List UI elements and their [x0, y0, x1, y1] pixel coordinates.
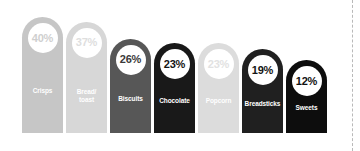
value-bubble: 19% — [248, 55, 278, 85]
percentage-bar-chart: 40%Crisps37%Bread/ toast26%Biscuits23%Ch… — [0, 0, 360, 151]
value-label: 37% — [76, 37, 97, 48]
value-label: 12% — [296, 76, 317, 87]
bar-crisps: 40%Crisps — [22, 17, 63, 133]
category-label: Chocolate — [154, 97, 195, 105]
value-label: 40% — [32, 33, 53, 44]
bar-bread-toast: 37%Bread/ toast — [66, 22, 107, 133]
bar-biscuits: 26%Biscuits — [110, 39, 151, 134]
bars-area: 40%Crisps37%Bread/ toast26%Biscuits23%Ch… — [0, 0, 360, 151]
category-label: Biscuits — [110, 95, 151, 103]
dashed-divider — [352, 0, 353, 151]
value-bubble: 40% — [28, 23, 58, 53]
value-label: 23% — [164, 59, 185, 70]
category-label: Sweets — [286, 104, 327, 112]
bar-chocolate: 23%Chocolate — [154, 43, 195, 133]
value-label: 23% — [208, 59, 229, 70]
value-bubble: 23% — [204, 49, 234, 79]
value-bubble: 23% — [160, 49, 190, 79]
value-bubble: 37% — [72, 28, 102, 58]
bar-sweets: 12%Sweets — [286, 60, 327, 133]
value-bubble: 12% — [292, 66, 322, 96]
value-label: 19% — [252, 65, 273, 76]
category-label: Popcorn — [198, 97, 239, 105]
bar-popcorn: 23%Popcorn — [198, 43, 239, 133]
category-label: Breadsticks — [242, 100, 283, 108]
bar-breadsticks: 19%Breadsticks — [242, 49, 283, 133]
value-bubble: 26% — [116, 45, 146, 75]
category-label: Crisps — [22, 87, 63, 95]
category-label: Bread/ toast — [66, 88, 107, 103]
value-label: 26% — [120, 54, 141, 65]
